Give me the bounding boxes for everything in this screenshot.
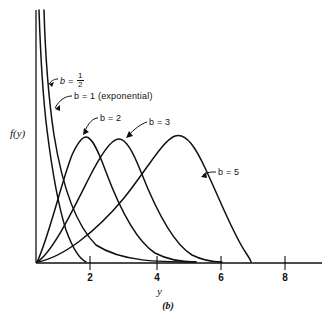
annotation-b-half: b = 12 xyxy=(60,73,84,90)
annotation-b-2: b = 2 xyxy=(100,113,121,123)
annotation-b-1: b = 1 (exponential) xyxy=(74,91,153,101)
annotation-b-3: b = 3 xyxy=(149,117,170,127)
curve-b-3 xyxy=(37,139,222,262)
leader-b-3 xyxy=(126,122,147,138)
x-tick-label-8: 8 xyxy=(275,272,295,283)
fraction-denominator: 2 xyxy=(77,81,84,89)
x-tick-label-2: 2 xyxy=(80,272,100,283)
leader-b-2 xyxy=(83,118,98,135)
curve-b-2 xyxy=(37,137,196,262)
figure-caption: (b) xyxy=(0,300,336,311)
annotation-b-5: b = 5 xyxy=(218,167,239,177)
fraction-one-half: 12 xyxy=(77,72,84,89)
gamma-density-figure: b = 12 b = 1 (exponential) b = 2 b = 3 b… xyxy=(0,0,336,319)
leader-b-half xyxy=(49,79,58,87)
y-axis-label: f(y) xyxy=(10,127,25,139)
x-tick-label-6: 6 xyxy=(211,272,231,283)
annotation-b-half-text: b = xyxy=(60,76,76,86)
leader-b-1 xyxy=(55,96,72,111)
x-axis-label: y xyxy=(157,285,162,297)
x-tick-label-4: 4 xyxy=(147,272,167,283)
